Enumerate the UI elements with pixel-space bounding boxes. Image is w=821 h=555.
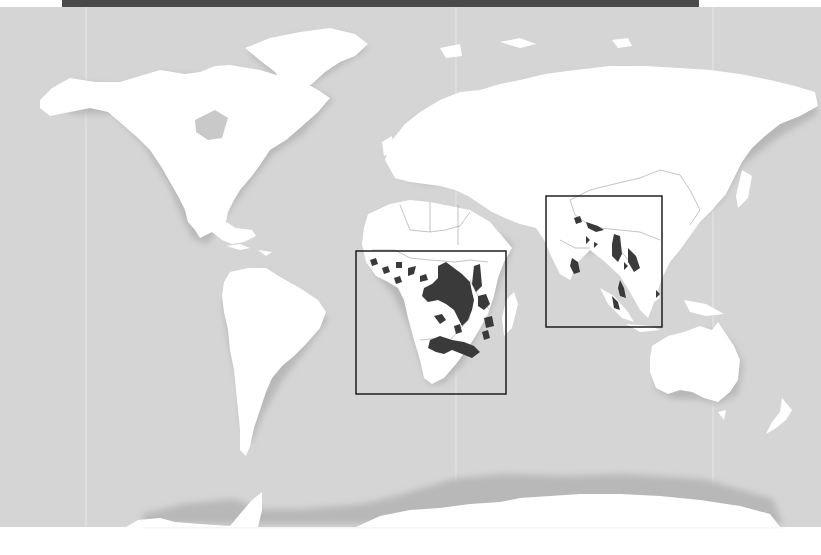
- bottom-margin: [0, 527, 821, 555]
- world-map: [0, 0, 821, 555]
- map-canvas: [0, 0, 821, 555]
